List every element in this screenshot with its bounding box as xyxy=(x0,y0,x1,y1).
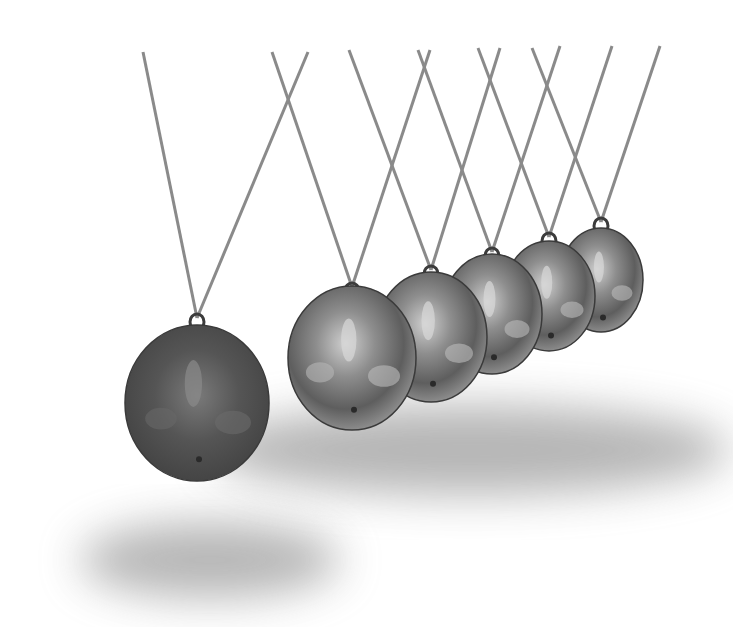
ball-5-string-2 xyxy=(601,46,660,222)
shadow-swinging xyxy=(80,522,340,598)
ball-swinging-string-2 xyxy=(197,52,308,318)
ball-5-string-1 xyxy=(532,48,601,222)
ball-swinging-string-1 xyxy=(143,52,197,318)
shadow-row xyxy=(210,405,730,495)
ball-4-string-2 xyxy=(549,46,612,237)
ball-2-string-2 xyxy=(431,48,500,270)
ball-4-string-1 xyxy=(478,48,549,237)
ball-1-string-1 xyxy=(272,52,352,287)
newtons-cradle-scene xyxy=(0,0,733,627)
ball-3-string-1 xyxy=(418,50,492,252)
ball-swinging xyxy=(125,314,269,481)
ball-3-string-2 xyxy=(492,46,560,252)
